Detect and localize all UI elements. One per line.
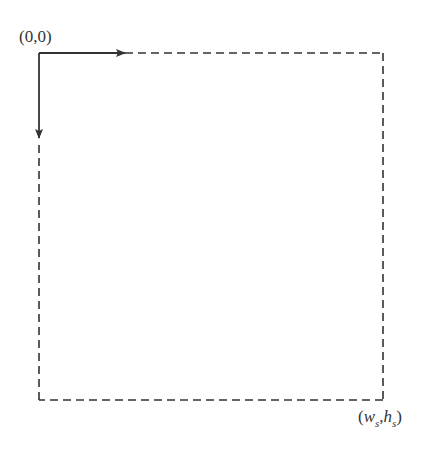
origin-label: (0,0) (19, 27, 52, 46)
dashed-screen-rectangle (39, 53, 383, 400)
coordinate-diagram: (0,0) (ws,hs) (0, 0, 423, 455)
corner-label: (ws,hs) (358, 407, 402, 429)
